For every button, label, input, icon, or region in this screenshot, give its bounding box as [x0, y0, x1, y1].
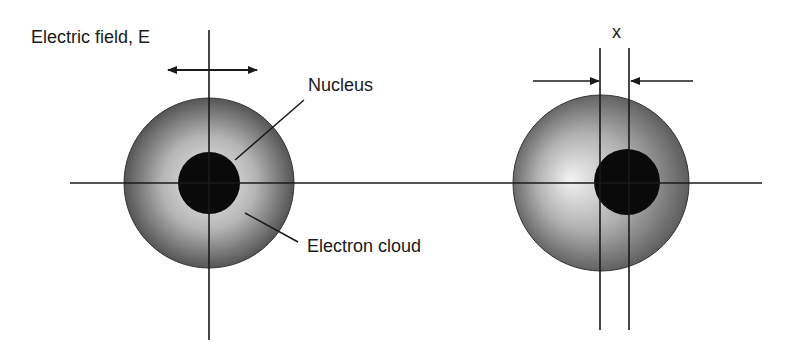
polarized-atom: [513, 48, 689, 330]
unpolarized-atom: [124, 30, 294, 340]
electric-field-label: Electric field, E: [31, 27, 150, 47]
displacement-label: x: [612, 22, 621, 42]
electron-cloud-label: Electron cloud: [307, 236, 421, 256]
polarization-diagram: Electric field, E Nucleus Electron cloud…: [0, 0, 792, 362]
nucleus-label: Nucleus: [308, 75, 373, 95]
nucleus-right: [594, 149, 660, 215]
